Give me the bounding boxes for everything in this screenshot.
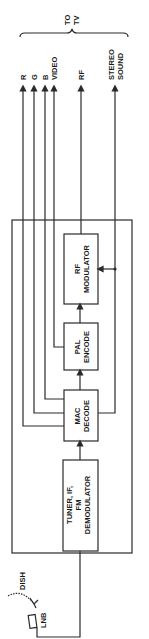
mac-label-1: MAC — [73, 407, 82, 425]
mac-label-2: DECODE — [82, 400, 91, 432]
dish-label: DISH — [18, 572, 27, 590]
output-rf-label: RF — [77, 70, 86, 80]
to-label: TO — [63, 15, 72, 25]
tv-label: TV — [72, 15, 81, 25]
output-stereo-label: STEREO — [107, 49, 116, 80]
lnb-icon — [28, 615, 37, 629]
tuner-label-1: TUNER, IF, — [65, 486, 74, 524]
lnb-label: LNB — [39, 612, 48, 628]
output-b-label: B — [41, 74, 50, 80]
g-output-line — [34, 88, 64, 413]
tuner-label-3: DEMODULATOR — [83, 475, 92, 534]
pal-label-2: ENCODE — [82, 331, 91, 363]
rf-mod-label-2: MODULATOR — [82, 244, 91, 293]
pal-label-1: PAL — [73, 339, 82, 354]
block-diagram: R G B VIDEO RF STEREO SOUND TO TV RF MOD… — [0, 0, 149, 639]
to-tv-brace — [20, 29, 128, 37]
output-r-label: R — [19, 74, 28, 80]
rf-mod-label-1: RF — [73, 264, 82, 274]
output-video-label: VIDEO — [50, 56, 59, 80]
output-g-label: G — [30, 74, 39, 80]
video-output-line — [54, 88, 64, 347]
output-sound-label: SOUND — [116, 52, 125, 80]
stereo-output-line — [98, 88, 115, 413]
tuner-label-2: FM — [74, 500, 83, 511]
r-output-line — [23, 88, 64, 426]
